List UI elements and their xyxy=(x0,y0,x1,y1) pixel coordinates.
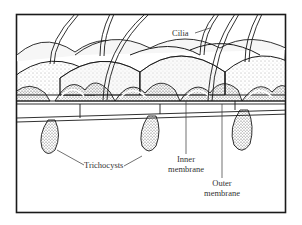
label-trichocysts: Trichocysts xyxy=(84,160,123,170)
label-inner-membrane: Inner xyxy=(177,154,195,164)
label-cilia: Cilia xyxy=(172,28,189,38)
pellicle-diagram: Cilia Trichocysts Inner membrane Outer m… xyxy=(0,0,302,225)
label-inner-membrane-2: membrane xyxy=(168,164,204,174)
label-outer-membrane: Outer xyxy=(212,178,232,188)
label-outer-membrane-2: membrane xyxy=(204,188,240,198)
